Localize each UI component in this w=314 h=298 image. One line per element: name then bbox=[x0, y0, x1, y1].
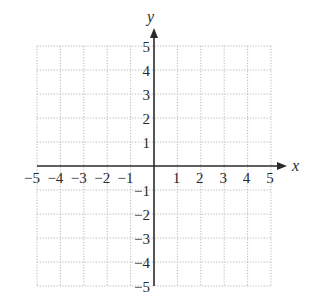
y-axis-arrow-icon bbox=[150, 28, 158, 38]
y-tick-label: 4 bbox=[143, 63, 151, 79]
x-tick-label: −2 bbox=[94, 170, 110, 186]
y-tick-label: −3 bbox=[134, 231, 150, 247]
y-tick-label: −1 bbox=[134, 183, 150, 199]
x-tick-label: 5 bbox=[266, 170, 274, 186]
y-axis-label: y bbox=[145, 8, 155, 26]
x-axis-arrow-icon bbox=[277, 162, 287, 170]
y-tick-label: 5 bbox=[143, 39, 151, 55]
x-tick-label: −3 bbox=[71, 170, 87, 186]
y-tick-label: 1 bbox=[143, 135, 151, 151]
x-tick-label: −4 bbox=[47, 170, 63, 186]
y-tick-labels: 54321−1−2−3−4−5 bbox=[134, 39, 150, 295]
axes: x y bbox=[37, 8, 299, 286]
x-tick-label: 3 bbox=[219, 170, 227, 186]
x-tick-label: 1 bbox=[173, 170, 181, 186]
x-axis-label: x bbox=[291, 157, 299, 174]
x-tick-label: 4 bbox=[243, 170, 251, 186]
y-tick-label: 2 bbox=[143, 111, 151, 127]
y-tick-label: −5 bbox=[134, 279, 150, 295]
coordinate-plane: x y −5−4−3−2−112345 54321−1−2−3−4−5 bbox=[0, 0, 314, 298]
x-tick-label: −5 bbox=[24, 170, 40, 186]
y-tick-label: 3 bbox=[143, 87, 151, 103]
x-tick-label: 2 bbox=[196, 170, 204, 186]
x-tick-label: −1 bbox=[118, 170, 134, 186]
y-tick-label: −4 bbox=[134, 255, 150, 271]
y-tick-label: −2 bbox=[134, 207, 150, 223]
